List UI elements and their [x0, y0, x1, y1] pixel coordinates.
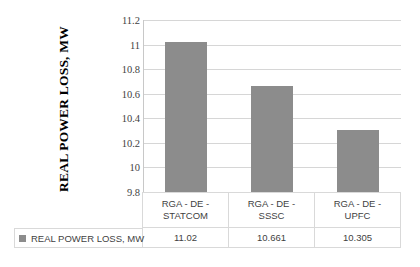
y-axis-title: REAL POWER LOSS, MW	[56, 26, 72, 192]
y-axis-tick-labels: 11.21110.810.610.410.2109.8	[100, 0, 140, 200]
legend-label: REAL POWER LOSS, MW	[31, 233, 144, 244]
table-category-label: RGA - DE -UPFC	[334, 198, 382, 222]
bar[interactable]	[165, 42, 207, 192]
table-corner-cell	[14, 192, 143, 228]
table-category-label: RGA - DE -STATCOM	[162, 198, 210, 222]
table-category-cell: RGA - DE -UPFC	[315, 192, 401, 228]
y-axis-tick-label: 10.4	[100, 113, 140, 124]
square-marker-icon	[19, 235, 26, 242]
y-axis-tick-label: 10.6	[100, 88, 140, 99]
table-value-cell: 10.661	[229, 228, 315, 248]
bar-slot	[143, 20, 229, 192]
bar-slot	[229, 20, 315, 192]
plot-area	[143, 20, 401, 192]
table-category-cell: RGA - DE -SSSC	[229, 192, 315, 228]
table-category-cell: RGA - DE -STATCOM	[143, 192, 229, 228]
table-row-values: REAL POWER LOSS, MW 11.0210.66110.305	[14, 228, 401, 248]
legend-entry: REAL POWER LOSS, MW	[14, 228, 143, 248]
data-table: RGA - DE -STATCOMRGA - DE -SSSCRGA - DE …	[14, 192, 401, 248]
bar-series-group	[143, 20, 401, 192]
table-value-cell: 10.305	[315, 228, 401, 248]
y-axis-tick-label: 10.2	[100, 137, 140, 148]
bar-slot	[315, 20, 401, 192]
y-axis-tick-label: 10	[100, 162, 140, 173]
bar-chart-figure: REAL POWER LOSS, MW 11.21110.810.610.410…	[0, 0, 420, 267]
y-axis-title-container: REAL POWER LOSS, MW	[42, 8, 86, 210]
y-axis-tick-label: 10.8	[100, 64, 140, 75]
table-value-cell: 11.02	[143, 228, 229, 248]
bar[interactable]	[337, 130, 379, 192]
table-category-label: RGA - DE -SSSC	[248, 198, 296, 222]
y-axis-tick-label: 11	[100, 39, 140, 50]
table-row-categories: RGA - DE -STATCOMRGA - DE -SSSCRGA - DE …	[14, 192, 401, 228]
bar[interactable]	[251, 86, 293, 192]
y-axis-tick-label: 11.2	[100, 15, 140, 26]
